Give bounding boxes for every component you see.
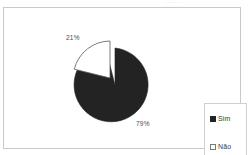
hollow-square-icon [210,144,216,150]
chart-legend: Sim Não [204,103,247,155]
legend-label-sim: Sim [218,115,231,123]
legend-label-nao: Não [218,143,231,151]
pie-label-sim: 79% [136,120,150,128]
chart-frame: 21% 79% Sim Não [3,7,241,149]
filled-square-icon [210,116,216,122]
pie-label-nao: 21% [66,34,80,42]
legend-item-sim[interactable]: Sim [210,115,231,123]
pie-chart-screenshot: ......... 21% 79% Sim Não [0,0,248,155]
legend-item-nao[interactable]: Não [210,143,231,151]
cropped-title-remnant: ......... [148,0,200,5]
